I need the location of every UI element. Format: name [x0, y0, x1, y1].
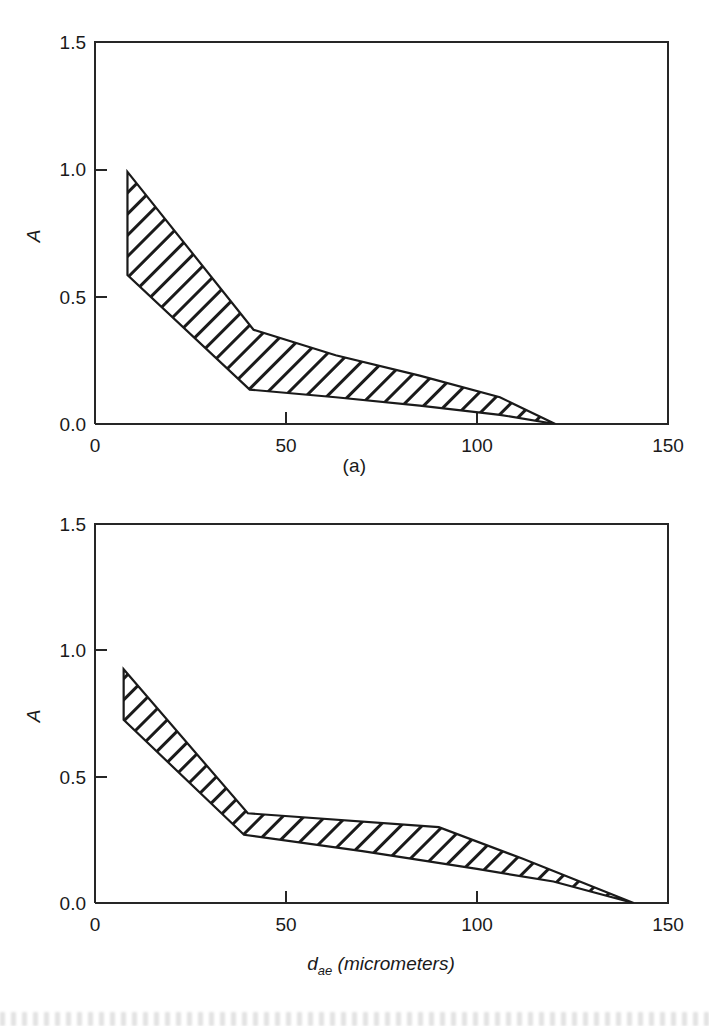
y-tick-labels-a: 0.0 0.5 1.0 1.5 [60, 32, 86, 435]
panel-caption-a: (a) [0, 455, 709, 477]
svg-text:1.5: 1.5 [60, 32, 86, 53]
x-axis-title-b: dae (micrometers) [307, 953, 455, 978]
data-band-a [127, 172, 555, 424]
svg-text:1.5: 1.5 [60, 514, 86, 535]
y-axis-title-b: A [23, 710, 44, 724]
svg-text:100: 100 [461, 435, 493, 456]
x-tick-labels-a: 0 50 100 150 [90, 435, 684, 456]
svg-text:1.0: 1.0 [60, 159, 86, 180]
y-axis-ticks-a [95, 42, 107, 424]
svg-text:150: 150 [652, 435, 684, 456]
x-tick-labels-b: 0 50 100 150 [90, 914, 684, 935]
y-tick-labels-b: 0.0 0.5 1.0 1.5 [60, 514, 86, 914]
svg-text:0.0: 0.0 [60, 414, 86, 435]
svg-text:50: 50 [275, 914, 296, 935]
svg-text:0: 0 [90, 435, 101, 456]
x-axis-title-subscript: ae [318, 963, 332, 978]
x-axis-ticks-b [95, 891, 668, 903]
svg-text:0: 0 [90, 914, 101, 935]
svg-text:100: 100 [461, 914, 493, 935]
x-axis-ticks-a [95, 412, 668, 424]
y-axis-title-a: A [23, 230, 44, 244]
svg-text:150: 150 [652, 914, 684, 935]
svg-text:50: 50 [275, 435, 296, 456]
figure-container: 0.0 0.5 1.0 1.5 0 50 100 150 A (a) [0, 0, 709, 1026]
svg-text:0.0: 0.0 [60, 893, 86, 914]
data-band-b [124, 669, 634, 903]
x-axis-title-unit: (micrometers) [332, 953, 454, 974]
plot-a-svg: 0.0 0.5 1.0 1.5 0 50 100 150 A [0, 0, 709, 500]
y-axis-ticks-b [95, 524, 107, 903]
svg-text:0.5: 0.5 [60, 287, 86, 308]
plot-b-svg: 0.0 0.5 1.0 1.5 0 50 100 150 A dae (micr… [0, 482, 709, 1026]
chart-panel-a: 0.0 0.5 1.0 1.5 0 50 100 150 A (a) [0, 0, 709, 500]
svg-text:0.5: 0.5 [60, 767, 86, 788]
page-bottom-artifact [0, 1012, 709, 1026]
svg-text:1.0: 1.0 [60, 640, 86, 661]
chart-panel-b: 0.0 0.5 1.0 1.5 0 50 100 150 A dae (micr… [0, 482, 709, 1026]
